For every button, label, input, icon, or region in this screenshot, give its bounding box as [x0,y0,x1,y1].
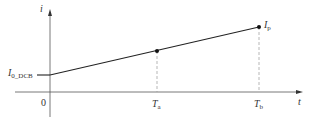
time-b-label: Tb [254,99,263,111]
initial-current-sub: 0_DCB [11,72,32,80]
peak-current-sub: p [267,24,271,32]
tb-point [257,25,261,29]
y-axis-arrow-icon [48,9,52,16]
peak-current-label: Ip [264,20,271,32]
time-a-label: Ta [152,99,161,111]
initial-current-label: I0_DCB [8,68,33,80]
origin-label: 0 [41,98,46,108]
x-axis-label: t [298,97,301,107]
time-b-sub: b [260,103,264,111]
time-a-sub: a [158,103,161,111]
ta-point [155,49,159,53]
current-ramp-line [50,27,259,75]
x-axis-arrow-icon [296,90,303,94]
y-axis-label: i [40,4,43,14]
